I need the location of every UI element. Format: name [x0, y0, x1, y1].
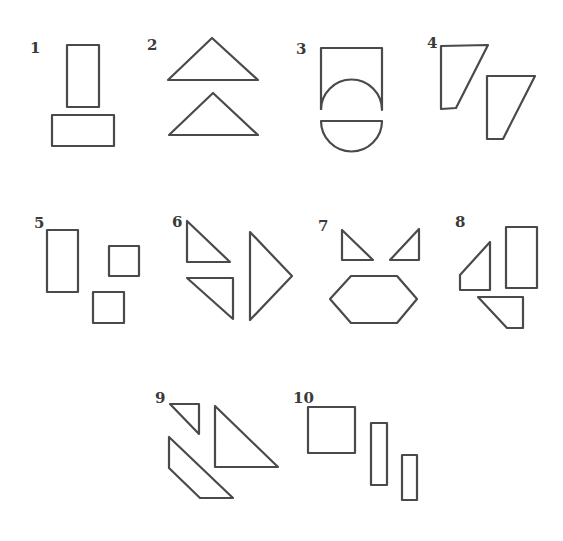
figure-4	[441, 45, 535, 139]
trapezoid-shape	[460, 242, 490, 290]
lower-trapezoid-shape	[487, 76, 535, 139]
figure-1	[52, 45, 114, 146]
figures-drawing	[0, 0, 563, 541]
upper-triangle-shape	[168, 38, 258, 80]
square-shape	[308, 407, 355, 453]
thin-rectangle-lower-shape	[402, 455, 417, 500]
rectangle-shape	[506, 227, 537, 288]
quadrilateral-shape	[478, 297, 523, 328]
upper-trapezoid-shape	[441, 45, 488, 109]
figure-9	[169, 404, 278, 498]
figure-6	[187, 221, 292, 320]
half-disc-shape	[321, 121, 382, 151]
square-with-arc-shape	[321, 48, 382, 110]
thin-rectangle-upper-shape	[371, 423, 387, 485]
hexagon-shape	[330, 276, 417, 323]
figure-3	[321, 48, 382, 151]
upper-square-shape	[109, 246, 139, 276]
large-triangle-shape	[250, 232, 292, 320]
lower-triangle-shape	[169, 93, 258, 135]
small-triangle-shape	[170, 404, 199, 434]
figure-5	[47, 230, 139, 323]
tall-rectangle-shape	[67, 45, 99, 107]
lower-small-triangle-shape	[187, 278, 233, 319]
figure-10	[308, 407, 417, 500]
figure-8	[460, 227, 537, 328]
lower-square-shape	[93, 292, 124, 323]
puzzle-sheet: 1 2 3 4 5 6 7 8 9 10	[0, 0, 563, 541]
right-triangle-shape	[390, 229, 419, 260]
upper-small-triangle-shape	[187, 221, 230, 262]
large-right-triangle-shape	[215, 406, 278, 467]
figure-2	[168, 38, 258, 135]
rectangle-shape	[47, 230, 78, 292]
figure-7	[330, 229, 419, 323]
wide-rectangle-shape	[52, 115, 114, 146]
left-triangle-shape	[342, 230, 373, 260]
